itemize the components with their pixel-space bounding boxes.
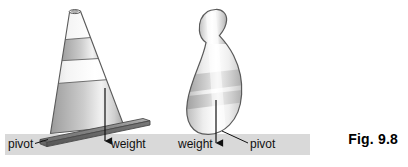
cone-weight-label: weight — [110, 137, 146, 151]
figure-illustration: pivot weight weight pivot — [0, 0, 408, 167]
pin-pivot-label: pivot — [250, 137, 276, 151]
figure-caption: Fig. 9.8 — [348, 131, 398, 147]
figure-9-8: pivot weight weight pivot Fig. 9.8 — [0, 0, 408, 167]
pin-weight-label: weight — [177, 137, 213, 151]
traffic-cone — [35, 10, 150, 147]
cone-pivot-label: pivot — [8, 137, 34, 151]
cone-tip — [69, 10, 80, 14]
